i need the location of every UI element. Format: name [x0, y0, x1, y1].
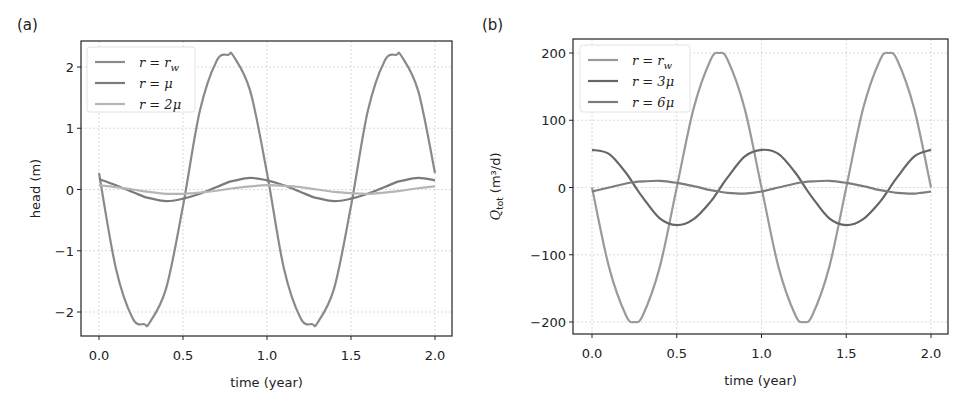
legend-label-subscript: w	[171, 62, 180, 73]
legend: r = rwr = μr = 2μ	[87, 47, 195, 112]
y-tick-label: 1	[66, 121, 74, 136]
y-tick-label: 0	[558, 181, 566, 196]
legend-label-text: r = r	[139, 55, 171, 70]
panel-label: (a)	[17, 16, 38, 34]
y-tick-label: 2	[66, 60, 74, 75]
legend-label-2: r = 6μ	[632, 95, 674, 110]
legend-label-subscript: w	[664, 60, 673, 71]
panel-a-head-vs-time: (a)0.00.51.01.52.0−2−1012time (year)head…	[17, 16, 452, 390]
panel-b-discharge-vs-time: (b)0.00.51.01.52.0−200−1000100200time (y…	[482, 16, 948, 388]
x-tick-label: 0.0	[89, 348, 110, 363]
panel-label: (b)	[482, 16, 503, 34]
y-axis-label-unit: (m³/d)	[488, 152, 503, 197]
x-tick-label: 0.5	[173, 348, 194, 363]
y-tick-label: 100	[541, 113, 566, 128]
y-tick-label: −1	[55, 244, 74, 259]
x-tick-label: 1.5	[836, 346, 857, 361]
x-axis-label: time (year)	[230, 375, 303, 390]
x-tick-label: 2.0	[425, 348, 446, 363]
y-tick-label: 0	[66, 183, 74, 198]
y-tick-label: −200	[530, 315, 566, 330]
legend-label-1: r = μ	[139, 76, 173, 91]
legend-label-1: r = 3μ	[632, 74, 674, 89]
y-tick-label: −2	[55, 305, 74, 320]
y-axis-label-sub: tot	[495, 197, 505, 210]
legend-label-text: r = 2μ	[139, 97, 181, 112]
y-tick-label: −100	[530, 248, 566, 263]
legend: r = rwr = 3μr = 6μ	[580, 45, 690, 112]
y-axis-label: head (m)	[28, 159, 43, 218]
y-axis-label-main: Q	[488, 210, 503, 221]
y-axis-label: Qtot (m³/d)	[488, 152, 505, 220]
legend-label-text: r = 3μ	[632, 74, 674, 89]
legend-label-text: r = 6μ	[632, 95, 674, 110]
x-tick-label: 0.0	[582, 346, 603, 361]
legend-label-2: r = 2μ	[139, 97, 181, 112]
x-axis-label: time (year)	[724, 373, 797, 388]
x-tick-label: 0.5	[666, 346, 687, 361]
legend-label-text: r = r	[632, 53, 664, 68]
figure-canvas: (a)0.00.51.01.52.0−2−1012time (year)head…	[0, 0, 960, 409]
legend-label-text: r = μ	[139, 76, 173, 91]
x-tick-label: 2.0	[921, 346, 942, 361]
x-tick-label: 1.5	[341, 348, 362, 363]
y-tick-label: 200	[541, 46, 566, 61]
x-tick-label: 1.0	[257, 348, 278, 363]
x-tick-label: 1.0	[751, 346, 772, 361]
figure: (a)0.00.51.01.52.0−2−1012time (year)head…	[0, 0, 960, 409]
